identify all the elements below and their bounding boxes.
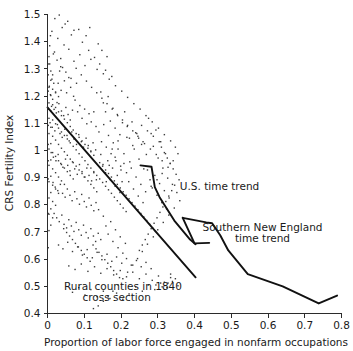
y-tick-label: 1.3 (24, 63, 41, 75)
scatter-point (106, 103, 107, 104)
scatter-point (164, 190, 165, 191)
x-axis-title: Proportion of labor force engaged in non… (44, 336, 348, 348)
scatter-point (71, 200, 72, 201)
scatter-point (55, 172, 56, 173)
y-tick-label: 1 (34, 144, 41, 156)
y-tick-label: 0.4 (24, 307, 41, 319)
scatter-point (120, 169, 121, 170)
scatter-point (108, 189, 109, 190)
scatter-point (69, 170, 70, 171)
scatter-point (64, 151, 65, 152)
scatter-point (88, 50, 89, 51)
scatter-point (56, 112, 57, 113)
scatter-point (74, 99, 75, 100)
scatter-point (60, 66, 61, 67)
scatter-point (85, 35, 86, 36)
scatter-point (98, 252, 99, 253)
scatter-point (105, 111, 106, 112)
scatter-point (117, 247, 118, 248)
scatter-point (117, 140, 118, 141)
scatter-point (50, 143, 51, 144)
scatter-point (106, 268, 107, 269)
x-tick-label: 0.3 (149, 319, 166, 331)
scatter-point (150, 148, 151, 149)
scatter-point (137, 136, 138, 137)
scatter-point (67, 21, 68, 22)
scatter-point (159, 141, 160, 142)
scatter-point (95, 149, 96, 150)
scatter-point (111, 76, 112, 77)
scatter-point (55, 139, 56, 140)
scatter-point (48, 87, 49, 88)
scatter-point (96, 191, 97, 192)
scatter-point (67, 114, 68, 115)
scatter-point (55, 107, 56, 108)
scatter-point (66, 232, 67, 233)
scatter-point (66, 227, 67, 228)
scatter-point (60, 90, 61, 91)
scatter-point (93, 235, 94, 236)
scatter-point (79, 105, 80, 106)
x-tick-label: 0.5 (223, 319, 240, 331)
scatter-point (69, 235, 70, 236)
scatter-point (144, 143, 145, 144)
scatter-point (106, 146, 107, 147)
scatter-point (81, 173, 82, 174)
scatter-point (138, 137, 139, 138)
scatter-point (170, 163, 171, 164)
scatter-point (93, 171, 94, 172)
scatter-point (88, 175, 89, 176)
scatter-point (78, 169, 79, 170)
scatter-point (114, 157, 115, 158)
scatter-point (81, 263, 82, 264)
scatter-point (52, 74, 53, 75)
scatter-point (131, 121, 132, 122)
scatter-point (103, 73, 104, 74)
scatter-point (98, 131, 99, 132)
scatter-point (123, 163, 124, 164)
scatter-point (62, 167, 63, 168)
scatter-point (117, 148, 118, 149)
scatter-point (57, 190, 58, 191)
scatter-point (74, 168, 75, 169)
scatter-point (96, 69, 97, 70)
scatter-point (137, 258, 138, 259)
scatter-point (103, 102, 104, 103)
scatter-point (129, 137, 130, 138)
scatter-point (67, 122, 68, 123)
scatter-point (73, 61, 74, 62)
scatter-point (62, 137, 63, 138)
scatter-point (84, 108, 85, 109)
scatter-point (98, 209, 99, 210)
y-tick-label: 0.7 (24, 226, 41, 238)
scatter-point (125, 243, 126, 244)
southern-new-england-label-line1: Southern New England (203, 221, 323, 233)
x-tick-label: 0.2 (113, 319, 130, 331)
scatter-point (67, 165, 68, 166)
scatter-point (50, 176, 51, 177)
scatter-point (52, 99, 53, 100)
y-axis-ticks: 0.40.50.60.70.80.911.11.21.31.41.5 (24, 8, 48, 319)
scatter-point (55, 123, 56, 124)
scatter-point (71, 225, 72, 226)
scatter-point (153, 223, 154, 224)
scatter-point (101, 255, 102, 256)
scatter-point (57, 124, 58, 125)
scatter-point (135, 176, 136, 177)
scatter-point (64, 196, 65, 197)
scatter-point (161, 160, 162, 161)
scatter-point (138, 195, 139, 196)
scatter-point (127, 97, 128, 98)
scatter-point (126, 258, 127, 259)
scatter-point (52, 89, 53, 90)
scatter-point (55, 156, 56, 157)
scatter-point (121, 90, 122, 91)
scatter-point (52, 185, 53, 186)
scatter-point (54, 130, 55, 131)
scatter-point (90, 228, 91, 229)
scatter-point (73, 231, 74, 232)
scatter-point (86, 257, 87, 258)
scatter-point (77, 111, 78, 112)
scatter-point (78, 246, 79, 247)
scatter-point (87, 148, 88, 149)
